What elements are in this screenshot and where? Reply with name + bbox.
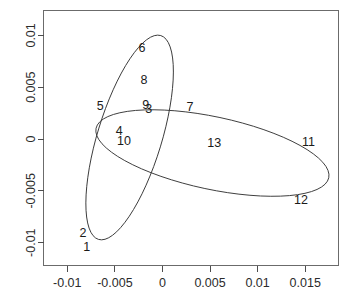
x-tick-label: -0.01 (53, 276, 82, 290)
data-point-label: 10 (117, 134, 131, 148)
plot-canvas: 12345678910111213 -0.01-0.00500.0050.010… (0, 0, 347, 304)
data-point-label: 6 (139, 41, 146, 55)
data-point-label: 13 (207, 136, 221, 150)
x-tick-label: 0.01 (245, 276, 269, 290)
x-tick-label: 0 (159, 276, 166, 290)
plot-panel (44, 11, 339, 266)
data-point-label: 7 (187, 100, 194, 114)
data-point-label: 2 (80, 226, 87, 240)
data-point-label: 1 (83, 240, 90, 254)
x-axis-tick-labels: -0.01-0.00500.0050.010.015 (53, 276, 321, 290)
data-point-label: 9 (142, 98, 149, 112)
x-tick-label: 0.005 (194, 276, 225, 290)
data-point-label: 8 (140, 73, 147, 87)
data-point-label: 11 (302, 135, 315, 149)
data-point-labels: 12345678910111213 (80, 41, 316, 254)
cluster-ellipses (68, 26, 337, 249)
y-tick-label: -0.01 (24, 228, 38, 257)
data-point-label: 12 (294, 193, 308, 207)
y-tick-label: 0.01 (24, 23, 38, 47)
panel-border (44, 11, 339, 266)
y-tick-label: 0.005 (24, 72, 38, 103)
data-point-label: 5 (97, 99, 104, 113)
x-tick-label: 0.015 (290, 276, 321, 290)
x-tick-label: -0.005 (97, 276, 132, 290)
x-axis-ticks (67, 266, 305, 272)
y-axis-tick-labels: -0.01-0.00500.0050.01 (24, 23, 38, 257)
scatter-plot-figure: 12345678910111213 -0.01-0.00500.0050.010… (0, 0, 347, 304)
y-tick-label: 0 (24, 136, 38, 143)
y-tick-label: -0.005 (24, 173, 38, 208)
y-axis-ticks (38, 35, 44, 242)
